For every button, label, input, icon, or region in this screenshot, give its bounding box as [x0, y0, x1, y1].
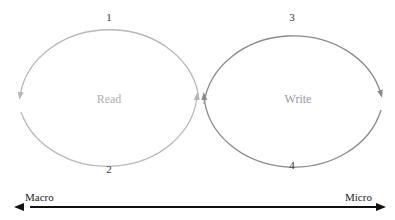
- label-step-4: 4: [289, 159, 295, 171]
- label-step-3: 3: [289, 11, 295, 23]
- axis-right-arrowhead: [376, 203, 386, 211]
- axis-left-arrowhead: [14, 203, 24, 211]
- label-step-1: 1: [106, 11, 112, 23]
- diagram-canvas: [0, 0, 395, 220]
- macro-label: Macro: [25, 191, 54, 203]
- write-label: Write: [285, 92, 312, 107]
- read-upper-arc: [20, 30, 199, 100]
- label-step-2: 2: [106, 163, 112, 175]
- read-label: Read: [97, 92, 122, 107]
- macro-micro-axis: [14, 203, 386, 211]
- micro-label: Micro: [345, 191, 372, 203]
